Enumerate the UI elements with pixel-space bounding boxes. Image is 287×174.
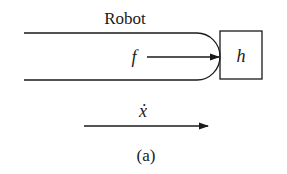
velocity-label: ẋ (138, 101, 147, 121)
figure-caption: (a) (137, 146, 156, 165)
robot-label: Robot (104, 9, 146, 28)
robot-contact-diagram: Robot f h ẋ (a) (0, 0, 287, 174)
force-label: f (131, 47, 139, 67)
environment-label: h (237, 46, 246, 66)
